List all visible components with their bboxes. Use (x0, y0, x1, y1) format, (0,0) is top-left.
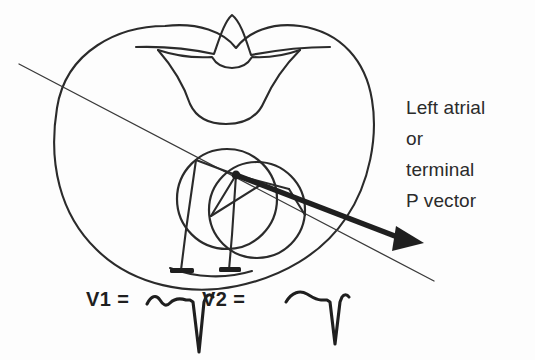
right-atrium-circle (177, 149, 277, 249)
vector-label-line-2: or (406, 123, 534, 154)
p-vector-diagram-figure: Left atrial or terminal P vector V1 = V2… (0, 0, 535, 360)
lead-label-v2: V2 = (202, 288, 245, 311)
terminal-p-vector-label: Left atrial or terminal P vector (406, 92, 534, 216)
electrode-v1-marker (170, 268, 194, 273)
ecg-waveform-v2 (286, 292, 349, 344)
thorax-outline (54, 25, 374, 290)
vector-label-line-1: Left atrial (406, 92, 534, 123)
electrode-v2-marker (219, 267, 241, 272)
vertebra-outline (136, 15, 330, 124)
lead-label-v1: V1 = (86, 288, 129, 311)
left-atrium-circle (209, 162, 305, 258)
vector-origin-dot (232, 171, 241, 180)
vector-label-line-4: P vector (406, 185, 534, 216)
vector-label-line-3: terminal (406, 154, 534, 185)
